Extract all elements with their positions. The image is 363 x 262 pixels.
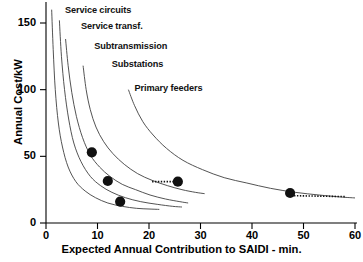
series-label-substations: Substations xyxy=(112,59,163,69)
chart-figure: Service circuitsService transf.Subtransm… xyxy=(0,0,363,262)
x-tick-label: 20 xyxy=(137,229,161,241)
x-tick-label: 30 xyxy=(189,229,213,241)
y-axis-label: Annual Cost/kW xyxy=(12,32,24,172)
series-label-service-circuits: Service circuits xyxy=(65,5,131,15)
y-tick-label: 0 xyxy=(4,216,36,228)
x-tick-label: 50 xyxy=(292,229,316,241)
chart-plot-area xyxy=(0,0,363,262)
x-tick-label: 10 xyxy=(86,229,110,241)
y-tick-marks xyxy=(40,23,46,223)
data-point-marker xyxy=(285,188,295,198)
x-tick-label: 40 xyxy=(240,229,264,241)
data-point-marker xyxy=(115,197,125,207)
dotted-tangent xyxy=(291,196,346,197)
data-point-marker xyxy=(173,177,183,187)
chart-series-curves xyxy=(52,10,355,210)
y-tick-label: 150 xyxy=(4,16,36,28)
series-curve xyxy=(128,90,355,198)
series-label-primary-feeders: Primary feeders xyxy=(134,83,202,93)
series-label-subtransmission: Subtransmission xyxy=(94,41,167,51)
data-point-marker xyxy=(103,176,113,186)
chart-axes xyxy=(46,2,357,223)
x-tick-label: 0 xyxy=(34,229,58,241)
chart-data-markers xyxy=(87,147,295,207)
series-label-service-transf: Service transf. xyxy=(81,21,143,31)
x-axis-label: Expected Annual Contribution to SAIDI - … xyxy=(0,243,363,255)
data-point-marker xyxy=(87,147,97,157)
x-tick-label: 60 xyxy=(343,229,363,241)
